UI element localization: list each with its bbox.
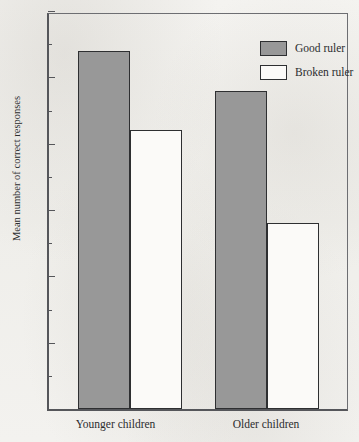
legend-swatch-good-ruler bbox=[260, 41, 287, 56]
legend-swatch-broken-ruler bbox=[260, 65, 287, 80]
legend-label-good-ruler: Good ruler bbox=[295, 43, 345, 55]
y-tick-minor bbox=[48, 243, 52, 244]
x-axis-label-older-children: Older children bbox=[184, 418, 348, 430]
y-tick-major bbox=[48, 276, 55, 277]
x-axis-label-younger-children: Younger children bbox=[47, 418, 184, 430]
y-tick-minor bbox=[48, 310, 52, 311]
bar-chart: 0123456 Good ruler Broken ruler Mean num… bbox=[0, 0, 359, 442]
bar-younger-children-good-ruler bbox=[78, 51, 130, 409]
legend-item-good-ruler: Good ruler bbox=[260, 41, 353, 56]
chart-legend: Good ruler Broken ruler bbox=[260, 41, 353, 89]
y-tick-minor bbox=[48, 44, 52, 45]
plot-area: 0123456 Good ruler Broken ruler bbox=[47, 13, 348, 411]
y-tick-major bbox=[48, 144, 55, 145]
y-tick-major bbox=[48, 210, 55, 211]
y-tick-minor bbox=[48, 177, 52, 178]
y-tick-minor bbox=[48, 111, 52, 112]
y-axis-title: Mean number of correct responses bbox=[11, 69, 22, 269]
y-tick-major bbox=[48, 409, 55, 410]
bar-older-children-good-ruler bbox=[215, 91, 267, 409]
legend-label-broken-ruler: Broken ruler bbox=[295, 67, 353, 79]
bar-younger-children-broken-ruler bbox=[130, 130, 182, 409]
bar-older-children-broken-ruler bbox=[267, 223, 319, 409]
y-tick-major bbox=[48, 343, 55, 344]
y-tick-major bbox=[48, 77, 55, 78]
y-tick-minor bbox=[48, 376, 52, 377]
y-tick-major bbox=[48, 11, 55, 12]
legend-item-broken-ruler: Broken ruler bbox=[260, 65, 353, 80]
